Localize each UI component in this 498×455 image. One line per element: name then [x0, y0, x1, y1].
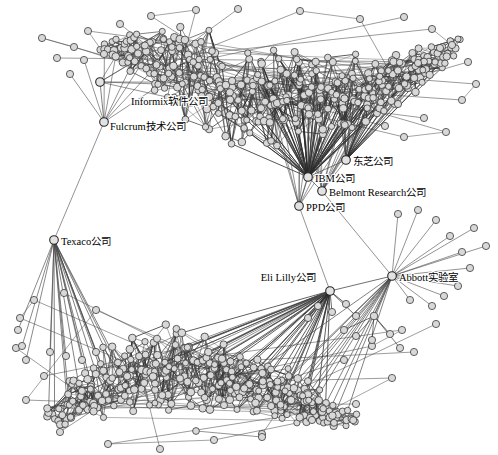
graph-node — [209, 48, 216, 55]
graph-edge — [392, 210, 418, 276]
graph-node — [238, 138, 246, 146]
graph-node — [386, 330, 393, 337]
graph-node — [60, 289, 67, 296]
graph-node — [267, 82, 273, 88]
graph-node — [333, 91, 340, 98]
graph-node — [149, 373, 157, 381]
graph-node — [272, 78, 278, 84]
graph-node — [127, 68, 134, 75]
graph-node — [329, 123, 335, 129]
node-label-texaco: Texaco公司 — [61, 236, 111, 247]
graph-node — [170, 62, 178, 70]
graph-node — [226, 396, 234, 404]
graph-node — [122, 383, 128, 389]
graph-node — [80, 402, 87, 409]
graph-node — [266, 119, 274, 127]
graph-node — [440, 292, 447, 299]
graph-node — [446, 232, 453, 239]
graph-node — [116, 369, 123, 376]
graph-node — [339, 73, 345, 79]
graph-node — [386, 83, 392, 89]
graph-node — [406, 296, 413, 303]
graph-node — [232, 113, 239, 120]
graph-node — [190, 73, 197, 80]
node-label-informix: Informix软件公司 — [131, 95, 208, 107]
graph-node — [226, 89, 233, 96]
graph-node — [236, 394, 243, 401]
graph-node — [313, 67, 319, 73]
graph-node — [285, 366, 291, 372]
graph-node — [174, 355, 181, 362]
graph-node — [121, 392, 128, 399]
graph-node — [153, 61, 160, 68]
graph-node — [176, 69, 183, 76]
hub-node-abbott[interactable] — [388, 272, 397, 281]
graph-node — [412, 88, 420, 96]
graph-node — [215, 395, 222, 402]
hub-node-ibm[interactable] — [304, 173, 313, 182]
graph-node — [312, 58, 319, 65]
graph-node — [352, 400, 359, 407]
graph-node — [159, 28, 165, 34]
graph-node — [396, 344, 403, 351]
graph-node — [246, 55, 253, 62]
graph-node — [228, 140, 235, 147]
graph-node — [458, 248, 465, 255]
graph-node — [168, 400, 175, 407]
graph-node — [293, 56, 300, 63]
graph-node — [226, 96, 234, 104]
hub-node-elililly[interactable] — [326, 287, 335, 296]
graph-node — [210, 436, 217, 443]
graph-node — [126, 399, 133, 406]
graph-node — [59, 412, 66, 419]
graph-node — [466, 264, 473, 271]
graph-node — [442, 128, 449, 135]
graph-node — [100, 367, 107, 374]
graph-node — [62, 352, 69, 359]
graph-node — [181, 36, 189, 44]
graph-node — [344, 407, 350, 413]
graph-node — [340, 326, 347, 333]
graph-node — [192, 377, 199, 384]
node-label-abbott: Abbott实验室 — [399, 271, 458, 283]
graph-node — [255, 72, 261, 78]
graph-node — [90, 408, 97, 415]
graph-node — [248, 107, 255, 114]
graph-node — [229, 374, 235, 380]
graph-node — [244, 117, 250, 123]
graph-node — [124, 373, 131, 380]
graph-node — [153, 335, 160, 342]
graph-node — [284, 412, 290, 418]
graph-node — [372, 60, 379, 67]
hub-node-ppd[interactable] — [295, 202, 304, 211]
graph-node — [401, 81, 408, 88]
graph-node — [177, 23, 184, 30]
graph-node — [455, 36, 461, 42]
graph-node — [22, 356, 29, 363]
graph-node — [315, 397, 323, 405]
graph-node — [349, 125, 355, 131]
graph-node — [325, 105, 332, 112]
hub-node-toshiba[interactable] — [342, 156, 351, 165]
graph-node — [400, 133, 407, 140]
graph-node — [141, 42, 148, 49]
graph-edge — [404, 132, 446, 137]
hub-node-belmont[interactable] — [318, 187, 327, 196]
graph-node — [22, 396, 29, 403]
graph-node — [100, 344, 107, 351]
hub-node-texaco[interactable] — [50, 236, 59, 245]
graph-node — [179, 81, 185, 87]
graph-node — [292, 116, 298, 122]
hub-node-informix[interactable] — [96, 78, 105, 87]
graph-node — [410, 348, 417, 355]
graph-edge — [108, 440, 214, 444]
graph-edge — [54, 122, 104, 240]
graph-node — [113, 36, 119, 42]
graph-node — [126, 345, 134, 353]
graph-node — [385, 68, 391, 74]
graph-node — [206, 406, 214, 414]
graph-node — [160, 36, 166, 42]
graph-node — [262, 98, 269, 105]
graph-node — [442, 60, 449, 66]
hub-node-fulcrum[interactable] — [100, 118, 109, 127]
